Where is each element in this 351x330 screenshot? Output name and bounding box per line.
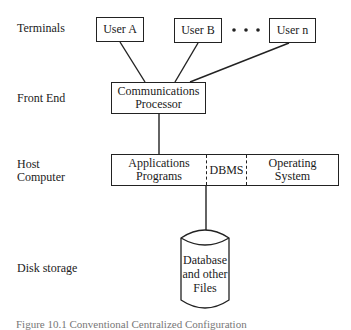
communications-processor-box: Communications Processor xyxy=(111,82,206,114)
applications-line2: Programs xyxy=(136,170,182,183)
figure-caption: Figure 10.1 Conventional Centralized Con… xyxy=(16,318,247,330)
database-line2: and other xyxy=(181,267,229,281)
host-segment-dbms: DBMS xyxy=(206,155,246,185)
database-line3: Files xyxy=(181,281,229,295)
comm-label-line2: Processor xyxy=(135,98,182,111)
tier-label-host-computer: Host Computer xyxy=(17,158,65,184)
terminal-user-a: User A xyxy=(96,17,144,42)
tier-label-disk-storage: Disk storage xyxy=(17,262,77,275)
terminal-user-n: User n xyxy=(269,18,316,43)
ellipsis-dots xyxy=(232,28,260,32)
dbms-label: DBMS xyxy=(209,164,243,177)
os-line2: System xyxy=(275,170,310,183)
host-computer-box: Applications Programs DBMS Operating Sys… xyxy=(111,154,339,186)
tier-label-front-end: Front End xyxy=(17,92,65,105)
database-label: Database and other Files xyxy=(181,253,229,295)
host-segment-operating-system: Operating System xyxy=(246,155,338,185)
tier-label-terminals: Terminals xyxy=(17,22,65,35)
host-segment-applications: Applications Programs xyxy=(112,155,206,185)
database-line1: Database xyxy=(181,253,229,267)
terminal-user-b: User B xyxy=(174,18,222,43)
